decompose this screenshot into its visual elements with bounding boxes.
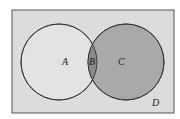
label-b: B: [89, 56, 95, 67]
label-a: A: [61, 56, 69, 67]
label-d: D: [151, 97, 160, 108]
label-c: C: [118, 56, 125, 67]
venn-diagram: A B C D: [0, 0, 180, 119]
